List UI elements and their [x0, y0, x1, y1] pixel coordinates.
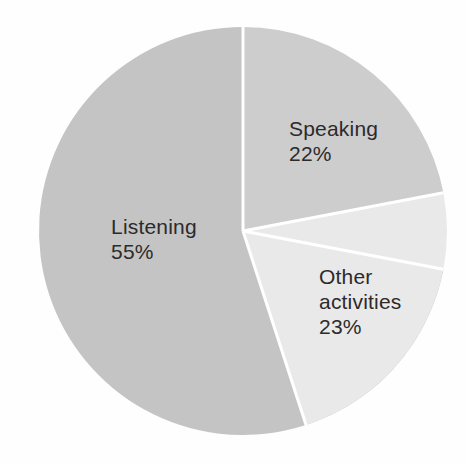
pie-slice-label-other-activities: Other activities 23%: [319, 264, 402, 339]
pie-chart: Speaking 22% Listening 55% Other activit…: [0, 0, 466, 463]
pie-slice-label-listening: Listening 55%: [111, 214, 197, 264]
pie-chart-canvas: [0, 0, 466, 463]
pie-slice-label-speaking: Speaking 22%: [289, 116, 378, 166]
